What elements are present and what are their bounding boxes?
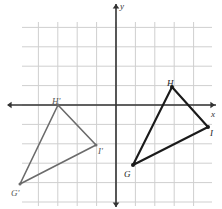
vertex-label: I <box>210 129 213 138</box>
coordinate-plane-figure: GHIG'H'I' x y <box>0 0 222 209</box>
vertex-point <box>18 182 21 185</box>
vertex-label: I' <box>98 147 103 156</box>
vertex-label: G' <box>11 189 19 198</box>
vertex-label: H' <box>52 97 60 106</box>
triangle-ghi <box>133 87 208 165</box>
grid-lines <box>22 22 212 206</box>
vertex-label: H <box>167 79 174 88</box>
x-axis-arrow-left <box>7 102 12 109</box>
vertex-point <box>131 163 135 167</box>
coordinate-plane-svg <box>0 0 222 209</box>
y-axis-label: y <box>120 2 124 11</box>
shape-layer <box>18 85 210 186</box>
x-axis-label: x <box>211 110 215 119</box>
y-axis-arrow-down <box>113 202 120 207</box>
y-axis-arrow-up <box>113 4 120 9</box>
x-axis-arrow-right <box>210 102 215 109</box>
vertex-label: G <box>124 170 131 179</box>
